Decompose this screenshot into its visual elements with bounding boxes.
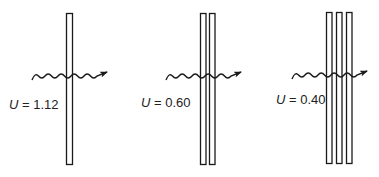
glass-pane (327, 13, 333, 164)
u-value-text: = 0.40 (285, 92, 325, 107)
glass-pane (337, 13, 343, 164)
double-glazing-group (166, 14, 241, 165)
u-value-label-single: U = 1.12 (9, 97, 59, 112)
glass-pane (347, 13, 353, 164)
u-value-text: = 1.12 (18, 97, 58, 112)
glazing-diagram (0, 0, 379, 177)
single-glazing-group (32, 14, 107, 165)
u-value-text: = 0.60 (150, 95, 190, 110)
u-value-label-triple: U = 0.40 (276, 92, 326, 107)
glass-pane (210, 14, 216, 165)
glass-pane (67, 14, 73, 165)
u-symbol: U (9, 97, 18, 112)
triple-glazing-group (292, 13, 367, 164)
glass-pane (201, 14, 207, 165)
u-symbol: U (141, 95, 150, 110)
u-value-label-double: U = 0.60 (141, 95, 191, 110)
u-symbol: U (276, 92, 285, 107)
